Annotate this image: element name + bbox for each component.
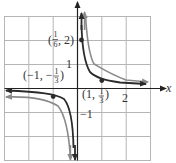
svg-text:3: 3 bbox=[100, 96, 104, 105]
x-tick-2: 2 bbox=[122, 91, 128, 105]
svg-text:, 2): , 2) bbox=[58, 33, 74, 47]
svg-text:3: 3 bbox=[55, 76, 59, 85]
svg-text:(−1, −: (−1, − bbox=[23, 68, 53, 82]
point-1-one-third bbox=[99, 78, 104, 83]
svg-text:(: ( bbox=[48, 33, 52, 47]
svg-text:6: 6 bbox=[54, 40, 58, 49]
svg-text:(1,: (1, bbox=[82, 87, 95, 101]
svg-text:1: 1 bbox=[100, 87, 104, 96]
point-neg1-neg-one-third bbox=[51, 94, 56, 99]
svg-text:1: 1 bbox=[54, 30, 58, 39]
y-tick-neg1: −1 bbox=[80, 107, 93, 121]
x-axis-label: x bbox=[165, 81, 172, 95]
label-point-one-sixth-2: ( 1 6 , 2) bbox=[48, 30, 74, 49]
svg-text:): ) bbox=[60, 68, 64, 82]
svg-text:): ) bbox=[105, 87, 109, 101]
label-point-1-one-third: (1, 1 3 ) bbox=[82, 87, 109, 105]
point-one-sixth-2 bbox=[79, 38, 84, 43]
hyperbola-graph: x 2 1 −1 ( 1 6 , 2) (1, 1 3 ) (−1, − 1 3… bbox=[0, 0, 176, 163]
svg-text:1: 1 bbox=[55, 67, 59, 76]
y-tick-1: 1 bbox=[66, 57, 72, 71]
curve-1-over-3x bbox=[6, 13, 146, 160]
